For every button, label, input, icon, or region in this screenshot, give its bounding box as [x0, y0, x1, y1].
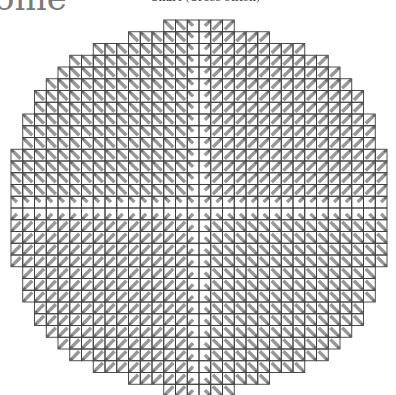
- cross-stitch-chart: [0, 0, 396, 395]
